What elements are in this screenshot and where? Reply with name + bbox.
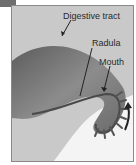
label-digestive-tract: Digestive tract [63,12,120,21]
label-mouth: Mouth [99,58,124,67]
diagram-frame: Digestive tract Radula Mouth [11,5,134,162]
label-radula: Radula [92,39,121,48]
radula-illustration [12,6,134,162]
